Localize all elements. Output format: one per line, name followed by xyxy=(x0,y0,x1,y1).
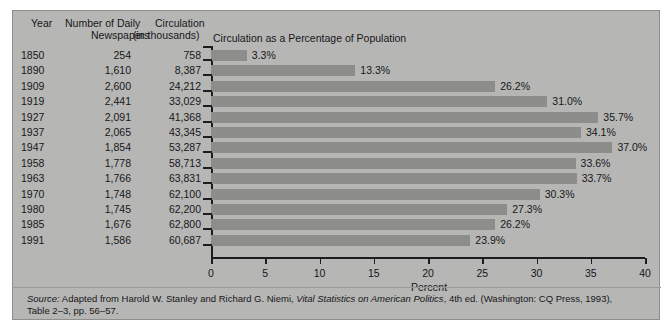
source-text-before: Adapted from Harold W. Stanley and Richa… xyxy=(60,293,297,304)
chart-title: Circulation as a Percentage of Populatio… xyxy=(213,32,406,44)
source-publication-title: Vital Statistics on American Politics xyxy=(296,293,443,304)
bar xyxy=(211,65,355,76)
bar-value-label: 23.9% xyxy=(475,235,505,246)
bar-value-label: 37.0% xyxy=(617,142,647,153)
bar-value-label: 26.2% xyxy=(500,219,530,230)
y-axis-tick xyxy=(203,59,212,61)
footer-divider xyxy=(13,287,661,288)
y-axis-tick xyxy=(203,90,212,92)
bar xyxy=(211,158,576,169)
x-axis-tick-label: 35 xyxy=(585,267,597,279)
source-line-two: Table 2–3, pp. 56–57. xyxy=(27,305,657,317)
bar xyxy=(211,219,495,230)
x-axis-tick-label: 10 xyxy=(314,267,326,279)
x-axis-tick xyxy=(320,258,322,264)
x-axis-tick-label: 25 xyxy=(476,267,488,279)
x-axis-tick xyxy=(591,258,593,264)
y-axis-tick xyxy=(203,46,212,48)
bar xyxy=(211,50,247,61)
bar-value-label: 3.3% xyxy=(252,50,276,61)
x-axis-tick-label: 40 xyxy=(639,267,651,279)
figure-panel: Year Number of Daily Newspapers Circulat… xyxy=(12,10,660,320)
x-axis-tick xyxy=(482,258,484,264)
y-axis-tick xyxy=(203,136,212,138)
bar-chart: Circulation as a Percentage of Populatio… xyxy=(13,11,661,321)
x-axis-tick-label: 0 xyxy=(208,267,214,279)
bar xyxy=(211,142,612,153)
source-label: Source: xyxy=(27,293,60,304)
bar-value-label: 31.0% xyxy=(552,96,582,107)
y-axis-tick xyxy=(203,244,212,246)
y-axis-tick xyxy=(203,74,212,76)
y-axis-tick xyxy=(203,151,212,153)
x-axis-tick xyxy=(428,258,430,264)
bar-value-label: 35.7% xyxy=(603,112,633,123)
bar-value-label: 34.1% xyxy=(586,127,616,138)
y-axis-tick xyxy=(203,198,212,200)
y-axis-tick xyxy=(203,105,212,107)
y-axis-tick xyxy=(203,228,212,230)
bar xyxy=(211,204,507,215)
y-axis-tick xyxy=(203,167,212,169)
bar-value-label: 30.3% xyxy=(545,189,575,200)
y-axis-tick xyxy=(203,121,212,123)
source-text-after: , 4th ed. (Washington: CQ Press, 1993), xyxy=(444,293,613,304)
y-axis-tick xyxy=(203,182,212,184)
bar xyxy=(211,96,547,107)
x-axis-tick-label: 20 xyxy=(422,267,434,279)
bar-value-label: 27.3% xyxy=(512,204,542,215)
bar-value-label: 13.3% xyxy=(360,65,390,76)
bar xyxy=(211,127,581,138)
x-axis-tick-label: 30 xyxy=(531,267,543,279)
bar-value-label: 33.6% xyxy=(581,158,611,169)
bar xyxy=(211,173,577,184)
source-note: Source: Adapted from Harold W. Stanley a… xyxy=(27,293,657,317)
x-axis-tick xyxy=(537,258,539,264)
bar-value-label: 26.2% xyxy=(500,81,530,92)
x-axis-tick xyxy=(645,258,647,264)
y-axis-tick xyxy=(203,213,212,215)
x-axis-tick xyxy=(265,258,267,264)
x-axis-tick xyxy=(211,258,213,264)
x-axis-tick-label: 5 xyxy=(262,267,268,279)
bar xyxy=(211,81,495,92)
bar xyxy=(211,235,470,246)
bar xyxy=(211,189,540,200)
bar-value-label: 33.7% xyxy=(582,173,612,184)
x-axis-tick xyxy=(374,258,376,264)
bar xyxy=(211,112,598,123)
x-axis-tick-label: 15 xyxy=(368,267,380,279)
